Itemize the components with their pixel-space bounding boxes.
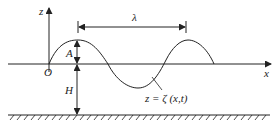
surface-equation-label: z = ζ (x,t) [145, 93, 187, 104]
amplitude-label: A [66, 48, 73, 59]
surface-leader-line [152, 77, 162, 90]
wave-diagram [0, 0, 278, 134]
wavelength-label: λ [132, 12, 137, 23]
origin-label: O [44, 67, 52, 78]
z-axis-label: z [39, 6, 43, 17]
x-axis-label: x [264, 68, 269, 79]
depth-label: H [65, 85, 73, 96]
seabed-hatching [10, 115, 266, 120]
